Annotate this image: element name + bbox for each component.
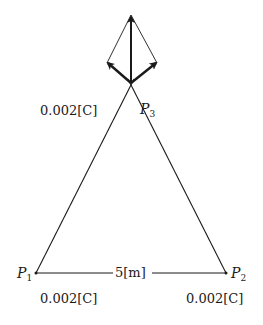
construction-line-right xyxy=(131,15,157,63)
force-arrow-left xyxy=(108,63,131,83)
point-label-p1: P1 xyxy=(17,266,32,283)
coulomb-force-diagram: 0.002[C] P3 P1 0.002[C] P2 0.002[C] 5[m] xyxy=(0,0,263,325)
charge-label-p3: 0.002[C] xyxy=(40,104,97,117)
force-arrow-right xyxy=(131,63,156,83)
point-label-p2: P2 xyxy=(231,266,246,283)
point-p2-dot xyxy=(225,272,228,275)
side-length-label: 5[m] xyxy=(113,266,148,279)
point-label-p3: P3 xyxy=(140,102,155,119)
point-p1-dot xyxy=(35,272,38,275)
construction-line-left xyxy=(107,15,131,63)
charge-label-p1: 0.002[C] xyxy=(40,292,97,305)
charge-label-p2: 0.002[C] xyxy=(186,292,243,305)
